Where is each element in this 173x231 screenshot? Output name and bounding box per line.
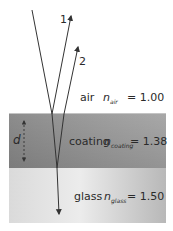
glass-value: = 1.50 [127, 191, 164, 202]
air-name: air [80, 91, 94, 104]
reflected-ray-1 [52, 16, 71, 114]
air-n-symbol: n [103, 91, 110, 104]
glass-value-text: = 1.50 [127, 190, 164, 203]
coating-n-symbol: n [104, 135, 111, 148]
coating-value: = 1.38 [130, 136, 167, 147]
thickness-label: d [13, 134, 21, 146]
incident-ray [32, 10, 52, 114]
glass-n-subscript: glass [111, 197, 126, 204]
ray-2-label: 2 [79, 56, 86, 67]
glass-index: nglass [104, 191, 126, 204]
air-index: nair [103, 92, 118, 105]
air-n-subscript: air [110, 98, 118, 105]
air-value: = 1.00 [127, 92, 164, 103]
coating-index: ncoating [104, 136, 133, 149]
glass-name: glass [74, 190, 102, 203]
air-label: air [80, 92, 94, 103]
glass-n-symbol: n [104, 190, 111, 203]
reflected-ray-2 [64, 47, 78, 114]
thin-film-diagram: 1 2 d air nair = 1.00 coating ncoating =… [0, 0, 173, 231]
coating-value-text: = 1.38 [130, 135, 167, 148]
ray-1-label: 1 [60, 14, 67, 25]
air-value-text: = 1.00 [127, 91, 164, 104]
glass-label: glass [74, 191, 102, 202]
